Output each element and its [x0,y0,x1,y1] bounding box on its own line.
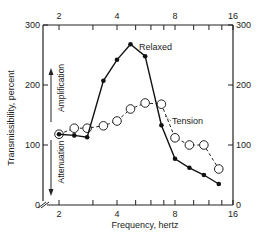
relaxed-point [72,133,77,138]
tension-point [113,117,122,126]
relaxed-point [187,166,192,171]
relaxed-point [85,135,90,140]
x-tick-label: 4 [114,209,119,219]
tension-point [99,122,108,131]
tension-point [141,99,150,108]
x-tick-label: 16 [228,209,238,219]
x-tick-label-top: 16 [228,11,238,21]
relaxed-line [59,44,219,184]
legend-tension-label: Tension [172,116,203,126]
relaxed-point [128,42,133,47]
plot-frame [38,25,233,208]
relaxed-point [159,123,164,128]
attenuation-label: Attenuation [56,140,66,183]
y-tick-label: 300 [25,20,40,30]
tension-point [200,141,209,150]
attenuation-arrow-icon [49,140,54,196]
relaxed-point [202,173,207,178]
y-tick-label-right: 200 [236,80,251,90]
y-tick-label: 0 [35,200,40,210]
y-tick-label: 100 [25,140,40,150]
x-tick-label-top: 4 [114,11,119,21]
y-tick-label: 200 [25,80,40,90]
legend-relaxed-label: Relaxed [139,42,172,52]
x-tick-label: 8 [172,209,177,219]
tension-point [157,100,166,109]
series-relaxed [57,42,221,186]
tension-point [214,165,223,174]
y-tick-label-right: 100 [236,140,251,150]
transmissibility-chart: 001001002002003003002244881616 Relaxed T… [0,0,264,240]
tension-point [126,105,135,114]
tension-point [70,124,79,133]
x-axis-label: Frequency, hertz [112,220,179,230]
tension-point [171,134,180,143]
relaxed-point [101,79,106,84]
x-tick-label-top: 8 [172,11,177,21]
tension-point [185,141,194,150]
relaxed-point [115,58,120,63]
y-tick-label-right: 300 [236,20,251,30]
relaxed-point [57,132,62,137]
relaxed-point [143,54,148,59]
relaxed-point [216,182,221,187]
amplification-arrow-icon [49,68,54,122]
x-tick-label-top: 2 [56,11,61,21]
x-tick-label: 2 [56,209,61,219]
y-axis-label: Transmissibility, percent [6,70,16,166]
axis-ticks: 001001002002003003002244881616 [25,11,251,219]
amplification-label: Amplification [56,64,66,112]
relaxed-point [173,157,178,162]
